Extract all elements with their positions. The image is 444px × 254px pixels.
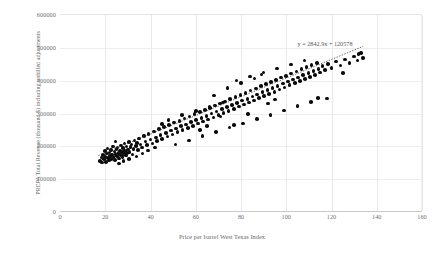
- data-point: [326, 62, 330, 66]
- data-point: [113, 158, 117, 162]
- x-tick-label: 140: [372, 213, 381, 220]
- data-point: [122, 159, 126, 163]
- x-axis-line: [60, 211, 422, 212]
- y-tick-label: 100000: [0, 175, 56, 182]
- data-point: [232, 123, 236, 127]
- x-tick-label: 80: [238, 213, 244, 220]
- data-point: [269, 80, 273, 84]
- data-point: [136, 148, 140, 152]
- data-point: [246, 97, 250, 101]
- data-point: [167, 118, 171, 122]
- data-point: [284, 74, 288, 78]
- data-point: [221, 101, 225, 105]
- x-tick-label: 120: [327, 213, 336, 220]
- data-point: [242, 103, 246, 107]
- x-tick-label: 160: [417, 213, 426, 220]
- data-point: [160, 137, 164, 141]
- data-point: [298, 79, 302, 83]
- data-point: [361, 56, 365, 60]
- data-point: [152, 130, 156, 134]
- x-tick-label: 0: [58, 213, 61, 220]
- y-tick-label: 300000: [0, 109, 56, 116]
- data-point: [247, 101, 251, 105]
- data-point: [323, 68, 327, 72]
- y-tick-label: 600000: [0, 11, 56, 18]
- data-point: [239, 93, 243, 97]
- data-point: [169, 129, 173, 133]
- scatter-chart: 0100000200000300000400000500000600000 02…: [0, 0, 444, 254]
- data-point: [187, 139, 191, 143]
- data-point: [203, 108, 207, 112]
- data-point: [254, 87, 258, 91]
- data-point: [262, 94, 266, 98]
- data-point: [157, 127, 161, 131]
- x-axis-title: Price per barrel West Texas Index: [0, 233, 444, 240]
- gridline-horizontal: [60, 179, 421, 180]
- data-point: [180, 113, 184, 117]
- data-point: [227, 109, 231, 113]
- data-point: [303, 77, 307, 81]
- data-point: [330, 66, 334, 70]
- data-point: [274, 78, 278, 82]
- data-point: [226, 86, 230, 90]
- data-point: [255, 117, 259, 121]
- data-point: [234, 95, 238, 99]
- data-point: [252, 99, 256, 103]
- data-point: [145, 143, 149, 147]
- data-point: [140, 146, 144, 150]
- data-point: [142, 134, 146, 138]
- data-point: [257, 96, 261, 100]
- data-point: [325, 97, 329, 101]
- data-point: [237, 105, 241, 109]
- data-point: [315, 61, 319, 65]
- data-point: [281, 82, 285, 86]
- y-axis-title-wrap: PREPA Total Revenue (thousand $) includi…: [10, 14, 20, 211]
- x-tick-label: 60: [193, 213, 199, 220]
- data-point: [198, 110, 202, 114]
- data-point: [289, 63, 293, 67]
- y-axis-title: PREPA Total Revenue (thousand $) includi…: [35, 20, 43, 206]
- gridline-horizontal: [60, 114, 421, 115]
- data-point: [269, 113, 273, 117]
- x-tick-label: 40: [147, 213, 153, 220]
- data-point: [194, 109, 198, 113]
- data-point: [313, 73, 317, 77]
- data-point: [316, 96, 320, 100]
- data-point: [232, 107, 236, 111]
- x-tick-label: 100: [282, 213, 291, 220]
- data-point: [212, 94, 216, 98]
- trendline-equation-label: y = 2842.9x + 120578: [298, 40, 353, 47]
- data-point: [117, 162, 121, 166]
- data-point: [341, 71, 345, 75]
- data-point: [308, 75, 312, 79]
- data-point: [167, 123, 171, 127]
- data-point: [309, 100, 313, 104]
- y-tick-label: 0: [0, 208, 56, 215]
- data-point: [246, 112, 250, 116]
- data-point: [282, 109, 286, 113]
- data-point: [160, 122, 164, 126]
- data-point: [222, 111, 226, 115]
- data-point: [178, 119, 182, 123]
- data-point: [244, 91, 248, 95]
- gridline-horizontal: [60, 48, 421, 49]
- y-tick-label: 200000: [0, 142, 56, 149]
- gridline-vertical: [422, 15, 423, 211]
- data-point: [239, 81, 243, 85]
- data-point: [343, 58, 347, 62]
- data-point: [127, 157, 131, 161]
- data-point: [155, 139, 159, 143]
- data-point: [259, 84, 263, 88]
- data-point: [248, 75, 252, 79]
- data-point: [228, 97, 232, 101]
- data-point: [214, 130, 218, 134]
- y-tick-label: 400000: [0, 76, 56, 83]
- x-tick-label: 20: [102, 213, 108, 220]
- data-point: [273, 90, 277, 94]
- data-point: [267, 92, 271, 96]
- data-point: [191, 124, 195, 128]
- data-point: [205, 124, 209, 128]
- data-point: [264, 82, 268, 86]
- data-point: [186, 126, 190, 130]
- data-point: [206, 118, 210, 122]
